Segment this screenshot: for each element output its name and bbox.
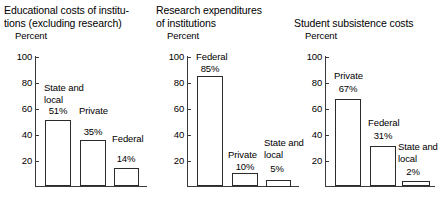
y-tick-label: 20	[298, 155, 322, 166]
bar-federal	[197, 76, 223, 186]
y-tick-mark	[35, 161, 39, 162]
y-tick-label: 60	[160, 103, 184, 114]
y-tick-label: 60	[8, 103, 32, 114]
plot-area: 100 80 60 40 20 Federal 85% Private 10% …	[152, 0, 302, 201]
y-axis-line	[325, 56, 326, 186]
y-tick-mark	[325, 83, 329, 84]
y-tick-label: 100	[160, 51, 184, 62]
y-tick-label: 100	[8, 51, 32, 62]
y-tick-label: 80	[8, 77, 32, 88]
bar-federal	[370, 146, 396, 186]
y-tick-label: 20	[8, 155, 32, 166]
bar-value-label-federal: 14%	[112, 153, 140, 165]
y-axis-line	[35, 56, 36, 186]
chart-panel-educational-costs: Educational costs of institu- tions (exc…	[0, 0, 150, 201]
plot-area: 100 80 60 40 20 State and local 51% Priv…	[0, 0, 150, 201]
y-tick-label: 100	[298, 51, 322, 62]
bar-value-label-state-and-local: 51%	[44, 105, 72, 117]
chart-panel-student-subsistence: Student subsistence costs Percent 100 80…	[290, 0, 435, 201]
bar-value-label-private: 10%	[231, 161, 259, 173]
y-tick-mark	[325, 57, 329, 58]
y-tick-mark	[187, 135, 191, 136]
plot-area: 100 80 60 40 20 Private 67% Federal 31% …	[290, 0, 435, 201]
y-tick-mark	[35, 109, 39, 110]
bar-value-label-federal: 31%	[369, 130, 397, 142]
y-tick-mark	[35, 135, 39, 136]
bar-value-label-federal: 85%	[196, 63, 224, 75]
y-tick-mark	[187, 83, 191, 84]
bar-category-label-federal: Federal	[368, 117, 412, 129]
bar-category-label-federal: Federal	[196, 51, 242, 63]
x-axis-line	[325, 186, 435, 187]
bar-category-label-federal: Federal	[112, 133, 152, 145]
y-tick-label: 80	[298, 77, 322, 88]
y-tick-label: 40	[8, 129, 32, 140]
bar-state-and-local	[402, 181, 430, 186]
bar-private	[335, 99, 361, 186]
bar-value-label-state-and-local: 2%	[400, 166, 426, 178]
bar-state-and-local	[266, 180, 291, 187]
chart-panel-research-expenditures: Research expenditures of institutions Pe…	[152, 0, 302, 201]
x-axis-line	[35, 186, 147, 187]
bar-private	[232, 173, 258, 186]
y-tick-mark	[35, 57, 39, 58]
y-tick-mark	[325, 109, 329, 110]
y-tick-label: 40	[160, 129, 184, 140]
y-tick-mark	[187, 57, 191, 58]
bar-value-label-private: 35%	[79, 126, 107, 138]
y-tick-label: 40	[298, 129, 322, 140]
y-tick-mark	[35, 83, 39, 84]
y-tick-label: 60	[298, 103, 322, 114]
y-tick-mark	[325, 161, 329, 162]
bar-value-label-state-and-local: 5%	[264, 163, 290, 175]
y-tick-mark	[325, 135, 329, 136]
y-tick-label: 80	[160, 77, 184, 88]
y-tick-label: 20	[160, 155, 184, 166]
bar-category-label-state-and-local: State and local	[44, 82, 90, 105]
bar-federal	[114, 168, 139, 186]
y-tick-mark	[187, 161, 191, 162]
bar-category-label-private: Private	[79, 105, 119, 117]
bar-value-label-private: 67%	[334, 83, 362, 95]
bar-category-label-private: Private	[334, 70, 378, 82]
y-tick-mark	[187, 109, 191, 110]
bar-state-and-local	[45, 120, 71, 186]
bar-category-label-state-and-local: State and local	[398, 141, 442, 164]
y-axis-line	[187, 56, 188, 186]
bar-private	[80, 140, 106, 186]
